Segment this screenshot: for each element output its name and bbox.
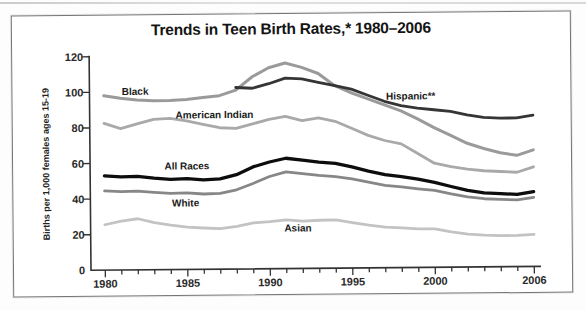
series-line-asian [105,215,534,239]
y-tick-label: 20 [72,229,84,241]
series-label-american-indian: American Indian [176,109,254,121]
series-line-black [104,61,534,159]
x-tick-label: 1990 [258,276,283,288]
y-tick-label: 80 [71,122,83,134]
chart-canvas: 020406080100120198019851990199520002006 [0,0,586,310]
x-tick-label: 1985 [176,277,201,289]
x-tick-label: 2006 [522,274,547,286]
figure: Trends in Teen Birth Rates,* 1980–2006 B… [0,0,586,310]
series-line-white [104,170,533,204]
y-tick-label: 40 [72,193,84,205]
x-tick-label: 2000 [423,275,448,287]
x-tick-label: 1980 [93,278,118,290]
series-label-asian: Asian [284,222,311,233]
x-tick-label: 1995 [341,275,366,287]
y-tick-label: 100 [65,86,83,98]
series-label-black: Black [122,85,149,96]
y-tick-label: 60 [72,158,84,170]
series-label-white: White [172,197,199,208]
series-label-hispanic: Hispanic** [386,90,436,101]
y-tick-label: 120 [65,51,83,63]
y-tick-label: 0 [79,264,85,276]
series-label-all-races: All Races [164,160,209,171]
series-line-hispanic [236,76,533,120]
